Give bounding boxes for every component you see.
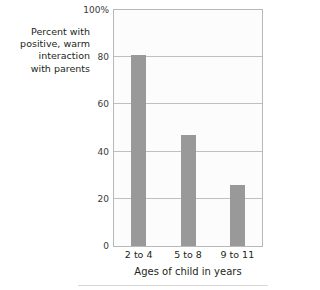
y-axis-tick-label: 80 [73, 52, 109, 62]
x-axis-tick-labels: 2 to 45 to 89 to 11 [113, 249, 263, 263]
chart-plot-area [113, 9, 263, 247]
x-axis-title: Ages of child in years [113, 266, 263, 277]
chart-plot-inner [114, 10, 262, 246]
x-axis-tick-label: 2 to 4 [113, 249, 165, 260]
x-axis-tick-label: 5 to 8 [162, 249, 214, 260]
bar [131, 55, 146, 246]
y-axis-tick-label: 0 [73, 241, 109, 251]
y-axis-tick-label: 40 [73, 147, 109, 157]
page-rule-bottom [78, 285, 268, 286]
x-axis-tick-label: 9 to 11 [211, 249, 263, 260]
bar [181, 135, 196, 246]
bar [230, 185, 245, 246]
y-axis-tick-label: 20 [73, 194, 109, 204]
y-axis-tick-label: 60 [73, 99, 109, 109]
y-axis-tick-labels: 020406080100% [71, 9, 109, 247]
y-axis-tick-label: 100% [73, 5, 109, 15]
